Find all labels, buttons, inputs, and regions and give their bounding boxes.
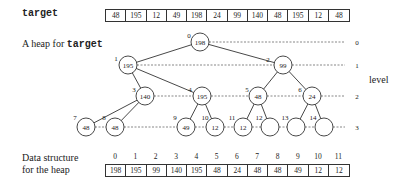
node-index: 5 bbox=[245, 86, 249, 94]
array-cell: 24 bbox=[228, 165, 248, 176]
array-index: 5 bbox=[206, 152, 226, 161]
node-value: 48 bbox=[112, 124, 120, 132]
array-cell: 12 bbox=[309, 165, 329, 176]
ds-label-line2: for the heap bbox=[22, 164, 78, 176]
array-index: 9 bbox=[288, 152, 308, 161]
node-value: 198 bbox=[195, 39, 206, 47]
node-value: 12 bbox=[212, 124, 220, 132]
array-cell: 48 bbox=[248, 165, 268, 176]
node-index: 11 bbox=[229, 114, 236, 122]
array-cell: 195 bbox=[187, 165, 207, 176]
level-number: 3 bbox=[355, 124, 359, 132]
node-index: 8 bbox=[102, 114, 106, 122]
array-cell: 48 bbox=[207, 165, 227, 176]
node-value: 49 bbox=[183, 124, 191, 132]
heap-array: 198 195 99 140 195 48 24 48 48 49 12 12 bbox=[105, 164, 350, 177]
node-value: 48 bbox=[83, 124, 91, 132]
node-value: 195 bbox=[123, 62, 134, 70]
array-cell: 48 bbox=[268, 165, 288, 176]
array-cell: 99 bbox=[147, 165, 167, 176]
ds-label-line1: Data structure bbox=[22, 152, 78, 164]
ds-label: Data structure for the heap bbox=[22, 152, 78, 176]
array-index: 2 bbox=[146, 152, 166, 161]
node-index: 2 bbox=[266, 56, 270, 64]
node-index: 14 bbox=[310, 114, 318, 122]
array-cell: 140 bbox=[167, 165, 187, 176]
node-index: 10 bbox=[202, 114, 210, 122]
node-index: 0 bbox=[187, 32, 191, 40]
array-index: 11 bbox=[328, 152, 348, 161]
node-value: 24 bbox=[309, 93, 317, 101]
node-index: 4 bbox=[188, 86, 192, 94]
node-index: 13 bbox=[282, 114, 290, 122]
array-index: 3 bbox=[166, 152, 186, 161]
array-cell: 198 bbox=[106, 165, 126, 176]
array-cell: 195 bbox=[126, 165, 146, 176]
node-value: 195 bbox=[197, 93, 208, 101]
array-index: 10 bbox=[308, 152, 328, 161]
array-index: 4 bbox=[186, 152, 206, 161]
array-cell: 12 bbox=[329, 165, 349, 176]
node-index: 3 bbox=[132, 86, 136, 94]
node-index: 9 bbox=[173, 114, 177, 122]
array-index: 0 bbox=[105, 152, 125, 161]
array-cell: 49 bbox=[288, 165, 308, 176]
node-index: 7 bbox=[73, 114, 77, 122]
node-value: 48 bbox=[255, 93, 263, 101]
array-index: 7 bbox=[247, 152, 267, 161]
node-value: 12 bbox=[240, 124, 248, 132]
array-index: 1 bbox=[125, 152, 145, 161]
node-index: 6 bbox=[298, 86, 302, 94]
node-index: 1 bbox=[114, 55, 118, 63]
level-label: level bbox=[369, 74, 389, 85]
node-index: 12 bbox=[256, 114, 264, 122]
level-number: 0 bbox=[355, 39, 359, 47]
node-value: 99 bbox=[280, 62, 288, 70]
array-index: 8 bbox=[267, 152, 287, 161]
level-number: 1 bbox=[355, 62, 359, 70]
node-value: 140 bbox=[140, 93, 151, 101]
array-index: 6 bbox=[227, 152, 247, 161]
ds-indices: 0 1 2 3 4 5 6 7 8 9 10 11 bbox=[105, 152, 350, 161]
level-number: 2 bbox=[355, 93, 359, 101]
